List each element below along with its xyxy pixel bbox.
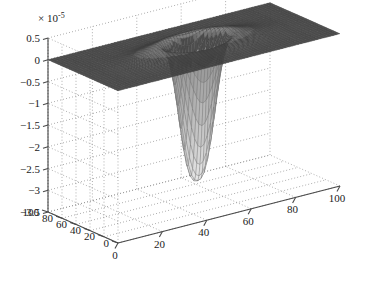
svg-text:100: 100	[23, 206, 40, 218]
svg-text:−1: −1	[28, 97, 40, 109]
svg-text:40: 40	[70, 224, 82, 236]
svg-text:80: 80	[42, 212, 54, 224]
svg-text:−3: −3	[28, 184, 40, 196]
svg-text:−1.5: −1.5	[20, 119, 40, 131]
z-exponent-label: × 10-5	[38, 11, 65, 24]
svg-text:40: 40	[198, 226, 210, 238]
svg-text:80: 80	[287, 203, 299, 215]
svg-text:0: 0	[112, 249, 118, 261]
mesh-surface	[48, 3, 340, 181]
z-exponent-text: × 10-5	[38, 11, 65, 24]
svg-text:0: 0	[35, 54, 41, 66]
svg-text:−2.5: −2.5	[20, 163, 40, 175]
plot-canvas: 0.50−0.5−1−1.5−2−2.5−3−3.502040608010002…	[0, 0, 380, 285]
svg-text:100: 100	[329, 192, 346, 204]
svg-text:60: 60	[243, 215, 255, 227]
svg-text:0.5: 0.5	[26, 32, 40, 44]
surface-plot-figure: 0.50−0.5−1−1.5−2−2.5−3−3.502040608010002…	[0, 0, 380, 285]
svg-text:20: 20	[154, 238, 166, 250]
svg-text:−2: −2	[28, 141, 40, 153]
svg-text:0: 0	[104, 237, 110, 249]
svg-text:60: 60	[56, 218, 68, 230]
svg-text:−0.5: −0.5	[20, 76, 40, 88]
svg-text:20: 20	[84, 230, 96, 242]
